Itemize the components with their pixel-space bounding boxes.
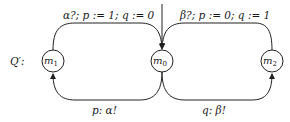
edge-m0-m2 [162, 72, 272, 100]
state-machine-diagram: α?; p := 1; q := 0 β?; p := 0; q := 1 p:… [0, 0, 290, 122]
edge-m2-m0 [162, 23, 272, 50]
edge-label-m2-m0: β?; p := 0; q := 1 [179, 9, 270, 21]
node-m2: m2 [261, 50, 283, 72]
automaton-name: Q′: [10, 55, 25, 68]
edge-m0-m1 [53, 72, 162, 100]
edge-label-m1-m0: α?; p := 1; q := 0 [63, 9, 155, 21]
edge-m1-m0 [53, 23, 162, 50]
edge-label-m0-m2: q: β! [202, 104, 226, 116]
edge-label-m0-m1: p: α! [92, 104, 117, 116]
node-m1: m1 [42, 50, 64, 72]
node-m0: m0 [151, 50, 173, 72]
